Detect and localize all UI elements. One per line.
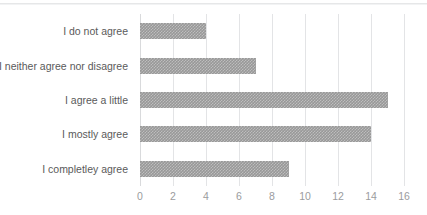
- tick-label-16: 16: [398, 189, 410, 203]
- category-label: I completley agree: [42, 161, 128, 177]
- bar: [140, 58, 256, 74]
- bar: [140, 161, 289, 177]
- category-label: I do not agree: [63, 23, 128, 39]
- tick-label-14: 14: [365, 189, 377, 203]
- gridline-16: [404, 14, 405, 186]
- category-label: I neither agree nor disagree: [0, 58, 128, 74]
- tick-label-10: 10: [299, 189, 311, 203]
- category-label: I agree a little: [65, 92, 128, 108]
- category-axis-labels: I do not agreeI neither agree nor disagr…: [0, 14, 134, 186]
- tick-label-2: 2: [170, 189, 176, 203]
- tick-label-12: 12: [332, 189, 344, 203]
- plot-area: [140, 14, 404, 186]
- category-label: I mostly agree: [62, 126, 128, 142]
- bar-chart: I do not agreeI neither agree nor disagr…: [0, 0, 427, 215]
- value-axis-tick-labels: 0246810121416: [140, 189, 404, 207]
- bar: [140, 92, 388, 108]
- tick-label-0: 0: [137, 189, 143, 203]
- chart-top-border-secondary: [0, 4, 427, 5]
- tick-label-6: 6: [236, 189, 242, 203]
- tick-label-8: 8: [269, 189, 275, 203]
- bar: [140, 126, 371, 142]
- bar: [140, 23, 206, 39]
- tick-label-4: 4: [203, 189, 209, 203]
